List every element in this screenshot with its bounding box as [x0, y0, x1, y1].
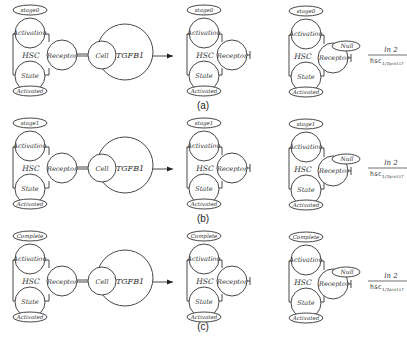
panel-b: stage1 Activation HSC Receptor State Act…	[12, 118, 407, 224]
stage-label: stage1	[21, 120, 40, 127]
rate-denominator: hsc	[370, 170, 382, 178]
activated-label: Activated	[292, 89, 320, 95]
cell-complex: Cell TGFB1	[88, 24, 153, 80]
state-label: State	[195, 298, 213, 306]
panel-caption: (b)	[197, 213, 209, 224]
rate-numerator: ln 2	[384, 159, 398, 167]
stage-label: stage0	[195, 7, 214, 14]
rate-subscript: 1/2prolif	[382, 287, 404, 292]
receptor-label: Receptor	[216, 278, 248, 286]
binding-line	[77, 167, 88, 169]
panel-caption: (a)	[197, 100, 209, 111]
activation-label: Activation	[12, 255, 46, 263]
hsc-complex-result: stage1 Activation HSC Receptor State Act…	[186, 118, 250, 209]
binding-line	[77, 54, 88, 56]
rate-numerator: ln 2	[384, 272, 398, 280]
receptor-label: Receptor	[216, 52, 248, 60]
receptor-label: Receptor	[46, 165, 78, 173]
cell-label: Cell	[96, 278, 109, 286]
hsc-label: HSC	[195, 277, 214, 286]
receptor-label: Receptor	[46, 278, 78, 286]
hsc-complex-final: stage1 Activation HSC Receptor Null Stat…	[288, 119, 360, 210]
receptor-label: Receptor	[318, 54, 350, 62]
stage-label: stage0	[297, 8, 316, 15]
activation-label: Activation	[12, 142, 46, 150]
receptor-label: Receptor	[46, 52, 78, 60]
state-label: State	[297, 299, 315, 307]
tgfb1-label: TGFB1	[116, 277, 144, 286]
hsc-label: HSC	[21, 277, 40, 286]
state-label: State	[195, 72, 213, 80]
null-label: Null	[340, 42, 354, 49]
rate-subscript: 1/2prolif	[382, 174, 404, 179]
state-label: State	[21, 72, 39, 80]
activated-label: Activated	[16, 88, 44, 94]
receptor-label: Receptor	[318, 280, 350, 288]
cell-label: Cell	[96, 165, 109, 173]
panel-c: Complete Activation HSC Receptor State A…	[12, 231, 407, 332]
tgfb1-label: TGFB1	[116, 164, 144, 173]
binding-line	[77, 280, 88, 282]
state-label: State	[21, 298, 39, 306]
rate-expression: ln 2 hsc 1/2prolif	[368, 46, 407, 66]
activated-label: Activated	[190, 314, 218, 320]
cell-complex: Cell TGFB1	[88, 137, 153, 193]
state-label: State	[21, 185, 39, 193]
hsc-label: HSC	[21, 164, 40, 173]
state-label: State	[297, 186, 315, 194]
hsc-complex-left: stage1 Activation HSC Receptor State Act…	[12, 118, 78, 209]
hsc-complex-final: Complete Activation HSC Receptor Null St…	[288, 232, 360, 323]
activation-label: Activation	[186, 255, 220, 263]
panel-a: stage0 Activation HSC Receptor State Act…	[12, 5, 407, 111]
activated-label: Activated	[190, 201, 218, 207]
hsc-label: HSC	[195, 51, 214, 60]
activated-label: Activated	[190, 88, 218, 94]
stage-label: Complete	[191, 233, 218, 240]
hsc-complex-result: Complete Activation HSC Receptor State A…	[186, 231, 250, 322]
activated-label: Activated	[292, 315, 320, 321]
cell-complex: Cell TGFB1	[88, 250, 153, 306]
stage-label: stage0	[21, 7, 40, 14]
stage-label: stage1	[297, 121, 316, 128]
receptor-label: Receptor	[216, 165, 248, 173]
panel-caption: (c)	[197, 321, 209, 332]
rate-denominator: hsc	[370, 57, 382, 65]
rate-numerator: ln 2	[384, 46, 398, 54]
stage-label: stage1	[195, 120, 214, 127]
activation-label: Activation	[288, 143, 322, 151]
hsc-complex-left: stage0 Activation HSC Receptor State Act…	[12, 5, 78, 96]
cell-label: Cell	[96, 52, 109, 60]
null-label: Null	[340, 155, 354, 162]
reaction-diagram: stage0 Activation HSC Receptor State Act…	[0, 0, 407, 346]
null-label: Null	[340, 268, 354, 275]
rate-subscript: 1/2prolif	[382, 61, 404, 66]
rate-expression: ln 2 hsc 1/2prolif	[368, 159, 407, 179]
activated-label: Activated	[16, 201, 44, 207]
stage-label: Complete	[17, 233, 44, 240]
rate-expression: ln 2 hsc 1/2prolif	[368, 272, 407, 292]
hsc-label: HSC	[195, 164, 214, 173]
rate-denominator: hsc	[370, 283, 382, 291]
hsc-label: HSC	[293, 278, 312, 287]
hsc-complex-result: stage0 Activation HSC Receptor State Act…	[186, 5, 250, 96]
activation-label: Activation	[288, 256, 322, 264]
activation-label: Activation	[186, 142, 220, 150]
activated-label: Activated	[16, 314, 44, 320]
activation-label: Activation	[288, 30, 322, 38]
state-label: State	[297, 73, 315, 81]
activation-label: Activation	[186, 29, 220, 37]
activated-label: Activated	[292, 202, 320, 208]
hsc-complex-left: Complete Activation HSC Receptor State A…	[12, 231, 78, 322]
state-label: State	[195, 185, 213, 193]
hsc-label: HSC	[293, 52, 312, 61]
hsc-complex-final: stage0 Activation HSC Receptor Null Stat…	[288, 6, 360, 97]
receptor-label: Receptor	[318, 167, 350, 175]
tgfb1-label: TGFB1	[116, 51, 144, 60]
stage-label: Complete	[293, 234, 320, 241]
hsc-label: HSC	[293, 165, 312, 174]
hsc-label: HSC	[21, 51, 40, 60]
activation-label: Activation	[12, 29, 46, 37]
